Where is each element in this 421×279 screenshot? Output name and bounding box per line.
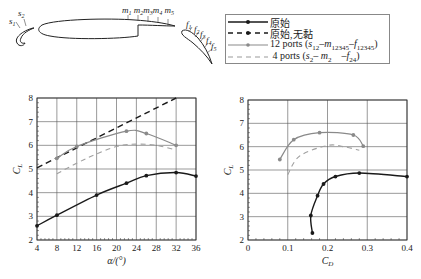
- y-tick-label: 3: [240, 212, 245, 222]
- y-tick-label: 5: [240, 165, 245, 175]
- data-point: [334, 175, 338, 179]
- y-tick-label: 3: [29, 211, 34, 221]
- y-tick-label: 8: [240, 95, 245, 105]
- data-point: [351, 133, 355, 137]
- data-point: [292, 138, 296, 142]
- y-tick-label: 4: [29, 188, 34, 198]
- data-point: [144, 174, 148, 178]
- x-tick-label: 4: [35, 243, 40, 253]
- series-line: [311, 173, 407, 233]
- data-point: [316, 194, 320, 198]
- chart-cl-vs-alpha: 48121620242832362345678α/(°)CL: [11, 93, 201, 267]
- series-line: [280, 132, 363, 159]
- y-tick-label: 8: [29, 93, 34, 103]
- x-tick-label: 0.4: [401, 243, 413, 253]
- x-axis-label: α/(°): [107, 255, 126, 267]
- data-point: [357, 171, 361, 175]
- data-point: [55, 213, 59, 217]
- y-tick-label: 5: [29, 164, 34, 174]
- y-tick-label: 2: [240, 235, 245, 245]
- x-axis-label: CD: [322, 255, 334, 268]
- x-tick-label: 8: [55, 243, 60, 253]
- data-point: [75, 145, 79, 149]
- data-point: [310, 231, 314, 235]
- y-tick-label: 4: [240, 188, 245, 198]
- data-point: [125, 181, 129, 185]
- x-tick-label: 0.2: [322, 243, 333, 253]
- x-tick-label: 0: [246, 243, 251, 253]
- data-point: [144, 132, 148, 136]
- x-tick-label: 0.3: [362, 243, 374, 253]
- data-point: [95, 193, 99, 197]
- y-tick-label: 6: [29, 140, 34, 150]
- y-tick-label: 6: [240, 142, 245, 152]
- x-tick-label: 12: [72, 243, 81, 253]
- x-tick-label: 24: [132, 243, 142, 253]
- data-point: [322, 182, 326, 186]
- data-point: [405, 175, 409, 179]
- data-point: [174, 171, 178, 175]
- x-tick-label: 28: [152, 243, 162, 253]
- data-point: [361, 144, 365, 148]
- data-point: [194, 174, 198, 178]
- y-tick-label: 2: [29, 235, 34, 245]
- y-axis-label: CL: [11, 164, 24, 175]
- grid: [37, 98, 196, 240]
- x-tick-label: 20: [112, 243, 122, 253]
- x-tick-label: 0.1: [282, 243, 293, 253]
- y-tick-label: 7: [29, 117, 34, 127]
- x-tick-label: 36: [192, 243, 202, 253]
- data-point: [174, 143, 178, 147]
- grid: [248, 100, 407, 240]
- data-point: [318, 131, 322, 135]
- data-point: [278, 158, 282, 162]
- data-point: [35, 224, 39, 228]
- data-point: [55, 156, 59, 160]
- chart-cl-vs-cd: 00.10.20.30.42345678CDCL: [222, 95, 413, 268]
- figure: s1 s2 m1 m2m3m4 m5 f1 f2 f3 f4 f5 原始 原始,…: [0, 0, 421, 279]
- charts-canvas: 48121620242832362345678α/(°)CL00.10.20.3…: [0, 0, 421, 279]
- y-tick-label: 7: [240, 118, 245, 128]
- x-tick-label: 16: [92, 243, 102, 253]
- data-point: [125, 129, 129, 133]
- y-axis-label: CL: [222, 165, 235, 176]
- data-point: [309, 214, 313, 218]
- x-tick-label: 32: [172, 243, 181, 253]
